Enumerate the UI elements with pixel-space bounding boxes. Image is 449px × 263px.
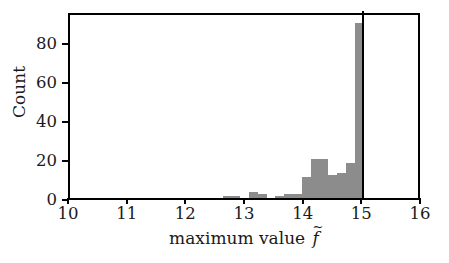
tilde-accent: ~ xyxy=(313,219,324,234)
histogram-bars xyxy=(70,15,418,198)
histogram-bar xyxy=(223,196,232,198)
histogram-bar xyxy=(284,194,293,198)
y-axis-tick-label: 20 xyxy=(17,151,57,170)
x-axis-label-symbol: ~f xyxy=(311,228,319,248)
histogram-bar xyxy=(346,163,355,198)
histogram-bar xyxy=(258,194,267,198)
x-axis-tick-label: 11 xyxy=(107,204,147,223)
x-axis-tick-label: 16 xyxy=(400,204,440,223)
plot-area xyxy=(68,13,420,200)
histogram-bar xyxy=(249,192,258,198)
x-axis-tick-label: 12 xyxy=(165,204,205,223)
histogram-bar xyxy=(337,173,346,198)
y-axis-label: Count xyxy=(9,32,29,152)
y-axis-tick xyxy=(62,43,68,45)
y-axis-tick xyxy=(62,121,68,123)
y-axis-tick xyxy=(62,199,68,201)
x-axis-tick-label: 13 xyxy=(224,204,264,223)
histogram-bar xyxy=(319,159,328,198)
histogram-figure: 10111213141516020406080 maximum value ~f… xyxy=(0,0,449,263)
x-axis-tick-label: 15 xyxy=(341,204,381,223)
histogram-bar xyxy=(311,159,320,198)
y-axis-tick-label: 0 xyxy=(17,190,57,209)
x-axis-label: maximum value ~f xyxy=(68,228,420,248)
histogram-bar xyxy=(328,175,337,198)
y-axis-tick xyxy=(62,82,68,84)
cutoff-vline xyxy=(362,11,364,198)
histogram-bar xyxy=(293,194,302,198)
x-axis-label-text: maximum value xyxy=(169,228,305,248)
histogram-bar xyxy=(231,196,240,198)
histogram-bar xyxy=(275,196,284,198)
histogram-bar xyxy=(302,177,311,198)
y-axis-tick xyxy=(62,160,68,162)
